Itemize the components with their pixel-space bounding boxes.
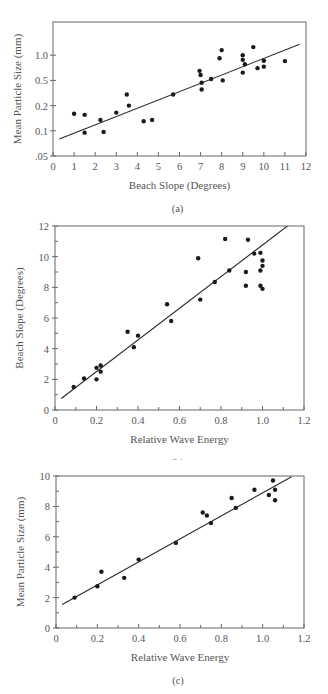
x-tick-label: 0.2	[91, 633, 104, 644]
data-point	[198, 73, 202, 77]
x-tick-label: 0	[53, 633, 58, 644]
chart-b-canvas: 00.20.40.60.81.01.2024681012Relative Wav…	[0, 215, 328, 460]
plot-frame	[56, 476, 304, 628]
y-tick-label: 12	[39, 221, 50, 232]
data-point	[196, 256, 200, 260]
y-tick-label: 10	[39, 252, 50, 263]
y-tick-label: 0.5	[35, 75, 48, 86]
plot-frame	[53, 22, 306, 156]
chart-a: 0123456789101112.050.10.20.51.0Beach Slo…	[0, 0, 328, 215]
x-tick-label: 3	[114, 161, 119, 172]
data-point	[234, 506, 238, 510]
x-tick-label: 1.2	[297, 633, 310, 644]
x-tick-label: 0	[52, 415, 57, 426]
data-point	[98, 118, 102, 122]
data-point	[252, 251, 256, 255]
y-tick-label: 4	[44, 344, 50, 355]
data-point	[213, 280, 217, 284]
data-point	[94, 366, 98, 370]
data-point	[241, 53, 245, 57]
x-tick-label: 6	[177, 161, 182, 172]
data-point	[283, 59, 287, 63]
data-point	[252, 487, 256, 491]
data-point	[201, 510, 205, 514]
y-tick-label: 6	[44, 313, 49, 324]
y-tick-label: 0	[45, 623, 50, 634]
data-point	[243, 62, 247, 66]
data-point	[260, 264, 264, 268]
x-tick-label: 0.4	[131, 415, 145, 426]
data-point	[82, 130, 86, 134]
data-point	[246, 238, 250, 242]
x-tick-label: 0.8	[214, 415, 227, 426]
data-point	[241, 70, 245, 74]
data-point	[150, 118, 154, 122]
data-point	[255, 66, 259, 70]
plot-frame	[55, 226, 304, 410]
x-axis-label: Relative Wave Energy	[131, 651, 230, 663]
data-point	[271, 478, 275, 482]
data-point	[223, 237, 227, 241]
y-tick-label: 8	[45, 501, 50, 512]
data-point	[219, 48, 223, 52]
data-point	[262, 58, 266, 62]
x-axis-label: Beach Slope (Degrees)	[129, 179, 231, 192]
data-point	[122, 576, 126, 580]
x-tick-label: 11	[280, 161, 290, 172]
data-point	[197, 69, 201, 73]
data-point	[82, 113, 86, 117]
data-point	[95, 584, 99, 588]
data-point	[71, 385, 75, 389]
data-point	[136, 557, 140, 561]
data-point	[101, 130, 105, 134]
data-point	[174, 541, 178, 545]
x-tick-label: 5	[156, 161, 161, 172]
data-point	[98, 369, 102, 373]
data-point	[260, 258, 264, 262]
data-point	[199, 87, 203, 91]
y-tick-label: 0	[44, 405, 49, 416]
data-point	[72, 595, 76, 599]
data-point	[227, 268, 231, 272]
y-tick-label: 2	[45, 593, 50, 604]
x-tick-label: 9	[240, 161, 245, 172]
data-point	[262, 64, 266, 68]
x-tick-label: 0.8	[215, 633, 228, 644]
data-point	[209, 77, 213, 81]
data-point	[273, 498, 277, 502]
y-tick-label: 2	[44, 374, 49, 385]
x-tick-label: 2	[93, 161, 98, 172]
data-point	[198, 297, 202, 301]
regression-line	[59, 44, 299, 139]
data-point	[125, 92, 129, 96]
chart-c-canvas: 00.20.40.60.81.01.20246810Relative Wave …	[0, 460, 328, 694]
x-tick-label: 0.6	[173, 633, 186, 644]
data-point	[251, 45, 255, 49]
y-tick-label: .05	[35, 151, 48, 162]
data-point	[258, 251, 262, 255]
y-axis-label: Mean Particle Size (mm)	[11, 34, 24, 145]
y-tick-label: 0.1	[35, 126, 48, 137]
data-point	[221, 78, 225, 82]
data-point	[209, 521, 213, 525]
subfigure-caption: (a)	[172, 203, 184, 215]
y-tick-label: 0.2	[35, 101, 48, 112]
data-point	[241, 58, 245, 62]
x-tick-label: 4	[135, 161, 141, 172]
x-tick-label: 1.0	[256, 633, 269, 644]
data-point	[199, 80, 203, 84]
x-tick-label: 1.0	[256, 415, 269, 426]
x-tick-label: 7	[198, 161, 203, 172]
x-axis-label: Relative Wave Energy	[130, 433, 229, 445]
data-point	[260, 287, 264, 291]
chart-c: 00.20.40.60.81.01.20246810Relative Wave …	[0, 460, 328, 694]
data-point	[205, 513, 209, 517]
data-point	[273, 487, 277, 491]
data-point	[244, 284, 248, 288]
data-point	[114, 110, 118, 114]
y-tick-label: 6	[45, 532, 50, 543]
x-tick-label: 0.2	[90, 415, 103, 426]
data-point	[98, 363, 102, 367]
subfigure-caption: (c)	[172, 675, 184, 687]
data-point	[94, 377, 98, 381]
